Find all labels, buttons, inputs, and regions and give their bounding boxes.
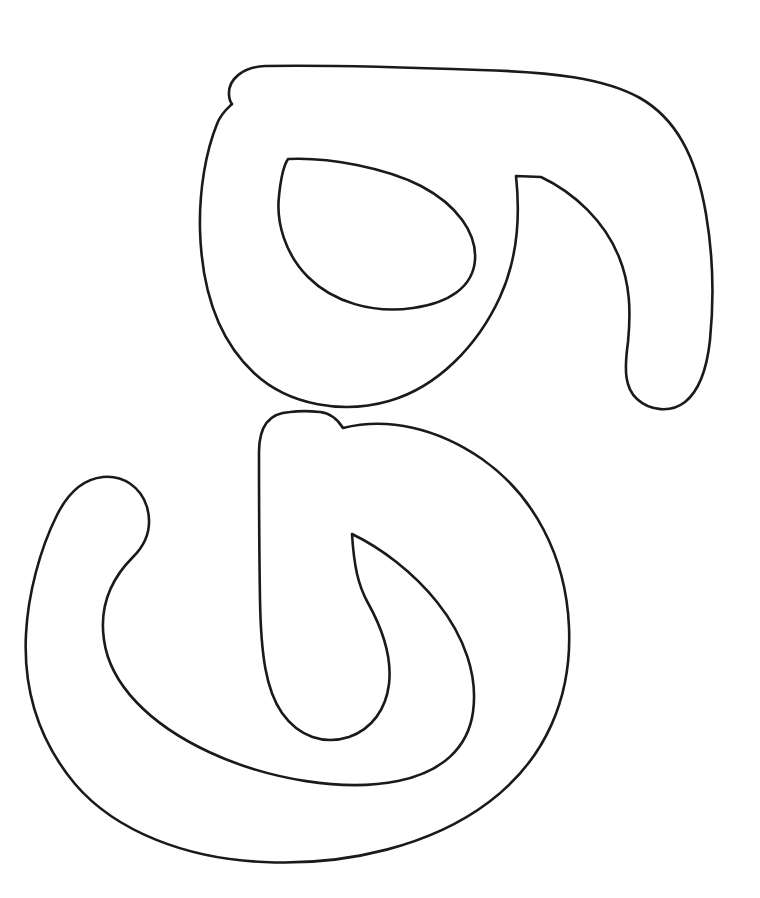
drawing-canvas: Black and white line-art outline drawing… [0, 0, 760, 898]
canvas-background [0, 0, 760, 898]
line-art-svg: Black and white line-art outline drawing… [0, 0, 760, 898]
